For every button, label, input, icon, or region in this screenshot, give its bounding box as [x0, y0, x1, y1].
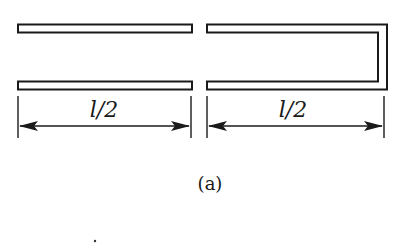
u-shaped-conductor [207, 25, 387, 90]
figure-caption: (a) [198, 173, 223, 194]
stray-mark [94, 240, 96, 242]
left-bottom-bar [18, 82, 192, 90]
left-top-bar [18, 25, 192, 33]
diagram-canvas: l/2 l/2 (a) [0, 0, 406, 243]
left-dimension-label: l/2 [90, 97, 118, 122]
right-dimension-label: l/2 [279, 97, 307, 122]
